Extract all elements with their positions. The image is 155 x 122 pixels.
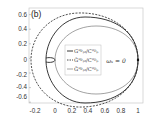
legend-label-solid: Gᴿᵖₚₜ/Cᴿᵖₚ	[74, 48, 98, 54]
y-tick-label: 0.4	[18, 25, 27, 32]
x-tick-label: 0.4	[84, 107, 93, 114]
y-tick-label: 0.2	[18, 40, 27, 47]
x-tick-label: 1	[136, 107, 140, 114]
legend: Gᴿᵖₚₜ/Cᴿᵖₚ Ĝᴿᵖₚₜ/Cᴿᵖₚ G̃ᴿᵖₚₜ/Cᴿᵖₚ	[65, 45, 101, 75]
nyquist-chart: 0.6 0.4 0.2 0 -0.2 -0.4 -0.6 -0.2 0 0.2 …	[0, 0, 155, 122]
y-tick-label: 0	[23, 56, 27, 63]
omega-zero-marker	[137, 59, 139, 61]
y-tick-label: -0.4	[16, 83, 27, 90]
omega-annotation: ωₛ = 0	[106, 57, 126, 64]
x-tick-label: -0.2	[30, 107, 41, 114]
legend-label-dashed: Ĝᴿᵖₚₜ/Cᴿᵖₚ	[74, 57, 98, 63]
x-axis-ticks: -0.2 0 0.2 0.4 0.6 0.8 1	[30, 107, 141, 114]
y-tick-label: -0.6	[16, 93, 27, 100]
y-tick-label: 0.6	[18, 11, 27, 18]
legend-label-thin: G̃ᴿᵖₚₜ/Cᴿᵖₚ	[74, 66, 98, 72]
x-tick-label: 0.6	[101, 107, 110, 114]
y-tick-label: -0.2	[16, 71, 27, 78]
x-tick-label: 0	[53, 107, 57, 114]
x-tick-label: 0.8	[117, 107, 126, 114]
x-tick-label: 0.2	[68, 107, 77, 114]
panel-label: (b)	[31, 9, 42, 19]
